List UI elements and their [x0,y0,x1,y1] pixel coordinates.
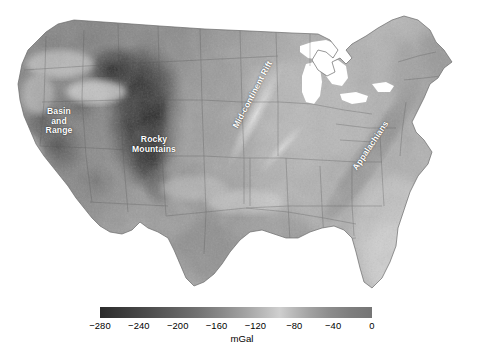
colorbar-tick-minus280: −280 [89,320,111,331]
cropped-caption-fragment [0,0,485,2]
colorbar-units-text: mGal [231,333,254,344]
colorbar: −280−240−200−160−120−80−400 mGal [0,300,485,356]
colorbar-gradient [100,307,372,318]
colorbar-tick-labels: −280−240−200−160−120−80−400 [0,320,485,333]
colorbar-tick-minus240: −240 [128,320,150,331]
colorbar-tick-0: 0 [369,320,374,331]
map-panel: BasinandRange RockyMountains Mid-contine… [0,6,485,296]
colorbar-tick-minus120: −120 [245,320,267,331]
colorbar-units-label: mGal [0,333,485,344]
map-image [0,6,485,296]
colorbar-tick-minus40: −40 [325,320,341,331]
gravity-field-raster [0,6,485,296]
gravity-anomaly-figure: BasinandRange RockyMountains Mid-contine… [0,0,485,356]
colorbar-tick-minus80: −80 [286,320,302,331]
colorbar-tick-minus160: −160 [206,320,228,331]
colorbar-tick-minus200: −200 [167,320,189,331]
